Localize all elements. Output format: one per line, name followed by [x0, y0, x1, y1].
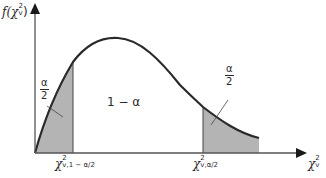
lower-critical-sub: v,1 − α/2 [62, 162, 95, 169]
right-tail-area-label: α 2 [225, 64, 234, 87]
x-axis-label: χ 2 v [308, 158, 320, 170]
upper-critical-base: χ [193, 158, 200, 170]
right-tail-numerator: α [225, 64, 234, 76]
x-axis-arrow-icon [296, 148, 307, 158]
left-tail-shade [35, 62, 73, 153]
left-tail-numerator: α [40, 78, 49, 90]
y-axis-label: f(χ 2 v ) [2, 6, 28, 18]
lower-critical-label: χ 2 v,1 − α/2 [55, 158, 95, 170]
x-axis-label-sub: v [315, 162, 319, 169]
left-tail-denominator: 2 [41, 90, 47, 101]
upper-critical-label: χ 2 v,α/2 [193, 158, 218, 170]
y-axis-label-prefix: f(χ [2, 6, 18, 18]
y-axis-arrow-icon [30, 3, 40, 14]
upper-critical-sub: v,α/2 [200, 162, 218, 169]
x-axis-label-base: χ [308, 158, 315, 170]
center-area-label: 1 − α [107, 96, 140, 108]
right-tail-denominator: 2 [226, 76, 232, 87]
lower-critical-base: χ [55, 158, 62, 170]
y-axis-label-close: ) [23, 6, 28, 18]
left-tail-area-label: α 2 [40, 78, 49, 101]
diagram-canvas [0, 0, 326, 178]
